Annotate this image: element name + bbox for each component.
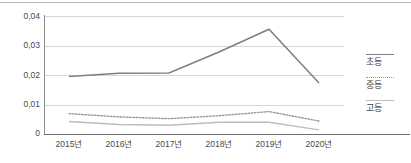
legend-swatch-solid-icon (366, 54, 394, 55)
legend-item-godeung[interactable]: 고등 (366, 100, 411, 114)
legend-swatch-dotted-icon (366, 77, 394, 78)
y-tick-label: 0,01 (2, 99, 40, 109)
x-axis-line (44, 134, 410, 135)
y-tick-label: 0,04 (2, 11, 40, 21)
legend-label: 초등 (366, 57, 411, 68)
series-lines (44, 16, 344, 134)
series-line-jungdeung (69, 112, 319, 121)
y-tick-label: 0 (2, 128, 40, 138)
legend-label: 중등 (366, 80, 411, 91)
y-tick-label: 0,02 (2, 70, 40, 80)
y-axis-labels: 0,04 0,03 0,02 0,01 0 (0, 0, 40, 163)
x-tick-label: 2020년 (289, 139, 349, 150)
chart-container: 0,04 0,03 0,02 0,01 0 2015년 2016년 2017년 … (0, 0, 411, 163)
series-line-godeung (69, 122, 319, 130)
legend-swatch-light-icon (366, 100, 394, 101)
series-line-chodeung (69, 29, 319, 83)
top-divider (0, 2, 411, 3)
y-tick-label: 0,03 (2, 40, 40, 50)
legend-item-chodeung[interactable]: 초등 (366, 54, 411, 68)
chart-legend: 초등 중등 고등 (366, 54, 411, 123)
legend-item-jungdeung[interactable]: 중등 (366, 77, 411, 91)
x-axis-labels: 2015년 2016년 2017년 2018년 2019년 2020년 (44, 139, 344, 159)
legend-label: 고등 (366, 103, 411, 114)
